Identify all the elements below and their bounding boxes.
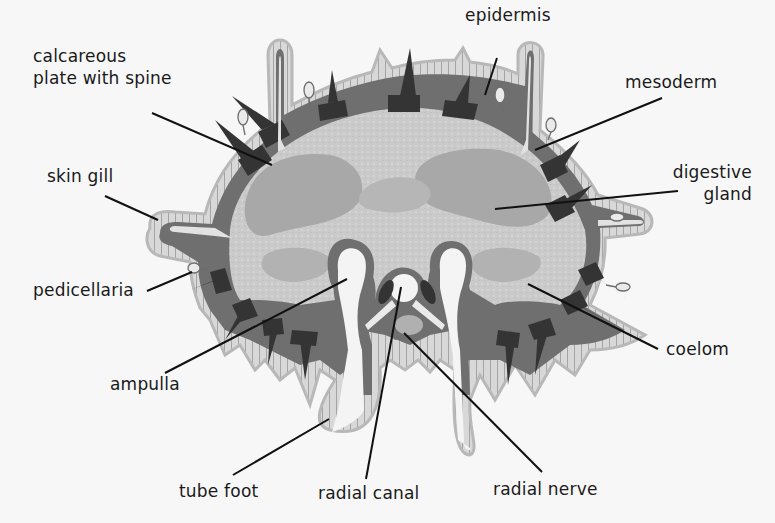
label-calcareous-plate-line2: plate with spine <box>33 67 172 89</box>
label-epidermis: epidermis <box>465 4 551 26</box>
label-tube-foot: tube foot <box>179 480 258 502</box>
label-ampulla: ampulla <box>110 373 180 395</box>
label-calcareous-plate-line1: calcareous <box>33 45 172 67</box>
radial-canal-lumen <box>390 274 418 302</box>
label-radial-canal: radial canal <box>318 482 420 504</box>
radial-nerve-shape <box>395 315 423 335</box>
label-digestive-gland-line2: gland <box>667 183 752 205</box>
label-radial-nerve: radial nerve <box>493 478 598 500</box>
label-mesoderm: mesoderm <box>625 71 717 93</box>
label-calcareous-plate: calcareous plate with spine <box>33 45 172 89</box>
label-coelom: coelom <box>666 338 729 360</box>
label-skin-gill: skin gill <box>47 165 113 187</box>
starfish-cross-section-diagram: calcareous plate with spine epidermis me… <box>0 0 775 523</box>
label-digestive-gland-line1: digestive <box>667 161 752 183</box>
label-pedicellaria: pedicellaria <box>33 279 134 301</box>
label-digestive-gland: digestive gland <box>667 161 752 205</box>
